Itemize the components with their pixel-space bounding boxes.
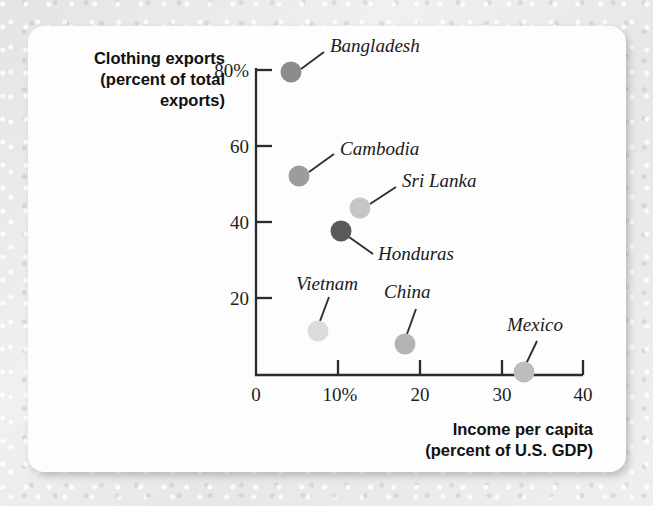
leader-line-honduras <box>349 237 373 254</box>
x-axis-title-line2: (percent of U.S. GDP) <box>425 441 593 459</box>
figure-card: Clothing exports (percent of total expor… <box>28 26 626 472</box>
y-axis-title-line3: exports) <box>160 91 225 109</box>
data-point-bangladesh[interactable]: Bangladesh <box>281 35 420 83</box>
x-tick-label-40: 40 <box>574 384 593 405</box>
marker-vietnam[interactable] <box>308 321 329 342</box>
data-point-mexico[interactable]: Mexico <box>506 314 563 383</box>
leader-line-vietnam <box>320 297 329 321</box>
marker-cambodia[interactable] <box>289 166 310 187</box>
y-tick-label-80: 80% <box>214 60 249 81</box>
point-label-sri-lanka: Sri Lanka <box>402 170 476 191</box>
y-axis-title-line2: (percent of total <box>100 70 225 88</box>
leader-line-sri-lanka <box>370 187 396 204</box>
chart-svg: Clothing exports (percent of total expor… <box>28 26 626 472</box>
point-label-bangladesh: Bangladesh <box>330 35 420 56</box>
x-axis-title-line1: Income per capita <box>453 420 594 438</box>
x-tick-label-30: 30 <box>493 384 512 405</box>
y-axis-title-line1: Clothing exports <box>94 49 225 67</box>
y-tick-label-60: 60 <box>230 136 249 157</box>
point-label-honduras: Honduras <box>377 243 454 264</box>
leader-line-bangladesh <box>301 52 324 69</box>
data-point-vietnam[interactable]: Vietnam <box>296 273 358 342</box>
marker-sri-lanka[interactable] <box>350 198 371 219</box>
x-tick-label-10: 10% <box>323 384 358 405</box>
x-tick-label-20: 20 <box>411 384 430 405</box>
marker-honduras[interactable] <box>331 221 352 242</box>
data-point-sri-lanka[interactable]: Sri Lanka <box>350 170 477 219</box>
point-label-china: China <box>384 281 430 302</box>
data-point-china[interactable]: China <box>384 281 430 355</box>
marker-mexico[interactable] <box>514 362 535 383</box>
marker-bangladesh[interactable] <box>281 62 302 83</box>
point-label-vietnam: Vietnam <box>296 273 358 294</box>
x-tick-label-0: 0 <box>251 384 261 405</box>
marker-china[interactable] <box>395 334 416 355</box>
leader-line-china <box>407 309 416 334</box>
data-point-honduras[interactable]: Honduras <box>331 221 455 265</box>
point-label-mexico: Mexico <box>506 314 563 335</box>
leader-line-cambodia <box>309 154 334 172</box>
scatter-plot: Clothing exports (percent of total expor… <box>28 26 626 472</box>
y-tick-label-20: 20 <box>230 288 249 309</box>
point-label-cambodia: Cambodia <box>340 138 419 159</box>
y-tick-label-40: 40 <box>230 212 249 233</box>
leader-line-mexico <box>526 341 537 364</box>
data-point-cambodia[interactable]: Cambodia <box>289 138 420 187</box>
